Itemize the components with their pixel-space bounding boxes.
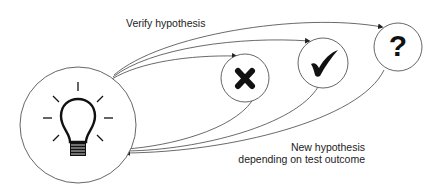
idea-node xyxy=(20,67,136,183)
hypothesis-cycle-diagram xyxy=(0,0,440,187)
arrow-to-rejected xyxy=(112,56,236,79)
new-hypothesis-line1: New hypothesis xyxy=(238,141,365,153)
arrow-to-confirmed xyxy=(113,40,309,77)
confirmed-node xyxy=(298,38,348,88)
verify-hypothesis-label: Verify hypothesis xyxy=(126,17,205,29)
rejected-node xyxy=(221,54,269,102)
question-mark-icon: ? xyxy=(384,29,412,63)
new-hypothesis-label: New hypothesis depending on test outcome xyxy=(238,141,365,165)
arrow-from-rejected xyxy=(126,101,252,149)
new-hypothesis-line2: depending on test outcome xyxy=(238,153,365,165)
